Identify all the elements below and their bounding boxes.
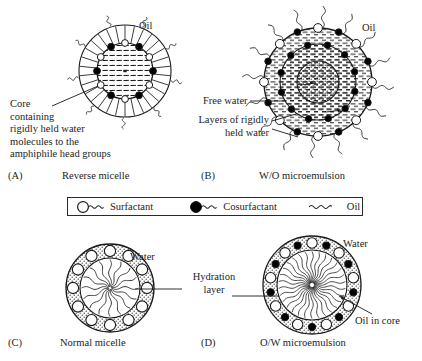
panel-c-caption: Normal micelle — [60, 337, 126, 348]
panel-c-tag: (C) — [8, 337, 22, 348]
panel-d-caption: O/W microemulsion — [260, 337, 346, 348]
panel-d-leader-line — [0, 0, 422, 361]
panel-d-tag: (D) — [201, 337, 216, 348]
